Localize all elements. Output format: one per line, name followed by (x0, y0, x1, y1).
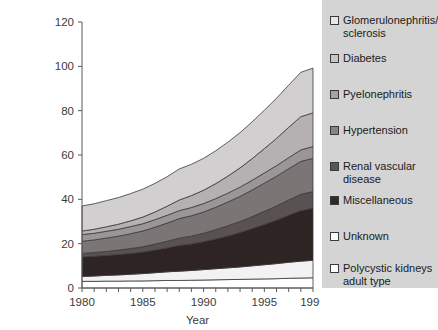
legend-swatch-icon (330, 232, 339, 241)
legend-item[interactable]: Diabetes (330, 52, 436, 65)
legend-item[interactable]: Hypertension (330, 124, 436, 137)
x-tick-label: 1985 (130, 296, 156, 308)
x-axis-title: Year (186, 314, 209, 326)
x-tick-label: 1999 (300, 296, 320, 308)
legend-item[interactable]: Renal vascular disease (330, 160, 436, 185)
legend-item-label: Polycystic kidneys adult type (343, 262, 432, 287)
y-tick-label: 0 (68, 282, 74, 294)
stacked-area-chart: 02040608010012019801985199019951999Year (0, 0, 320, 330)
legend-swatch-icon (330, 264, 339, 273)
legend-swatch-icon (330, 16, 339, 25)
legend-item-label: Glomerulonephritis/ sclerosis (343, 14, 438, 39)
chart-screenshot: 02040608010012019801985199019951999Year … (0, 0, 438, 330)
y-tick-label: 80 (61, 105, 74, 117)
legend-item-label: Renal vascular disease (343, 160, 416, 185)
legend-item-label: Diabetes (343, 52, 386, 65)
legend-item[interactable]: Pyelonephritis (330, 88, 436, 101)
legend-item-label: Unknown (343, 230, 389, 243)
legend-item[interactable]: Polycystic kidneys adult type (330, 262, 436, 287)
legend-item[interactable]: Miscellaneous (330, 194, 436, 207)
legend-swatch-icon (330, 196, 339, 205)
legend-swatch-icon (330, 90, 339, 99)
legend-item[interactable]: Glomerulonephritis/ sclerosis (330, 14, 436, 39)
legend-swatch-icon (330, 54, 339, 63)
x-tick-label: 1980 (69, 296, 95, 308)
y-tick-label: 60 (61, 149, 74, 161)
y-tick-label: 120 (55, 16, 74, 28)
chart-plot-area: 02040608010012019801985199019951999Year (0, 0, 320, 330)
y-tick-label: 40 (61, 193, 74, 205)
legend-swatch-icon (330, 162, 339, 171)
x-tick-label: 1995 (252, 296, 278, 308)
legend-item-label: Hypertension (343, 124, 408, 137)
legend-item-label: Miscellaneous (343, 194, 413, 207)
x-tick-label: 1990 (191, 296, 217, 308)
y-tick-label: 20 (61, 238, 74, 250)
y-tick-label: 100 (55, 60, 74, 72)
chart-legend: Glomerulonephritis/ sclerosisDiabetesPye… (322, 0, 438, 288)
legend-item[interactable]: Unknown (330, 230, 436, 243)
legend-swatch-icon (330, 126, 339, 135)
legend-item-label: Pyelonephritis (343, 88, 412, 101)
